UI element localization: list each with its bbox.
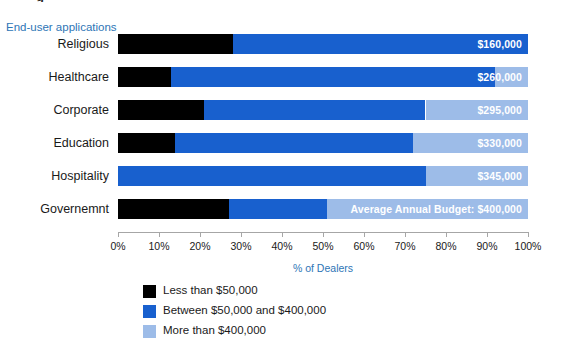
bar-data-label: $160,000 [477,39,522,50]
category-label: Hospitality [51,170,109,183]
x-axis-tick-label: 0% [110,240,125,252]
bar-row: Religious$160,000 [118,34,528,54]
x-axis-tick-label: 60% [353,240,374,252]
bar-row: Healthcare$260,000 [118,67,528,87]
bar-segment [118,133,175,153]
x-axis-tick [364,232,365,237]
x-axis-tick [405,232,406,237]
bar-data-label: $295,000 [477,105,522,116]
bar-segment [118,166,426,186]
x-axis-tick [118,232,119,237]
bar-segment [118,100,204,120]
bar-segment [171,67,495,87]
bar-row: Education$330,000 [118,133,528,153]
legend-label: Between $50,000 and $400,000 [163,305,326,317]
bar-segment [118,199,229,219]
category-label: Religious [58,38,109,51]
category-label: Healthcare [49,71,109,84]
x-axis-tick [446,232,447,237]
legend-label: Less than $50,000 [163,285,258,297]
x-axis-tick-label: 70% [394,240,415,252]
x-axis-tick [282,232,283,237]
bar-data-label: Average Annual Budget: $400,000 [350,204,522,215]
x-axis-tick [159,232,160,237]
x-axis-line: 0%10%20%30%40%50%60%70%80%90%100% [118,232,528,233]
bar-segment [118,34,233,54]
x-axis-tick [487,232,488,237]
x-axis-tick-label: 40% [271,240,292,252]
bar-data-label: $260,000 [477,72,522,83]
x-axis-tick-label: 80% [435,240,456,252]
bar-data-label: $345,000 [477,171,522,182]
chart-plot-area: Religious$160,000Healthcare$260,000Corpo… [118,30,528,232]
legend-item[interactable]: Between $50,000 and $400,000 [143,301,326,321]
legend-label: More than $400,000 [163,325,266,337]
bar-row: Corporate$295,000 [118,100,528,120]
x-axis-tick-label: 50% [312,240,333,252]
series-axis-title: End-user applications [6,21,117,33]
bar-row: Hospitality$345,000 [118,166,528,186]
x-axis-tick-label: 20% [189,240,210,252]
x-axis-tick [200,232,201,237]
category-label: Governemnt [40,203,109,216]
x-axis-tick [323,232,324,237]
x-axis-tick-label: 10% [148,240,169,252]
value-axis-title: % of Dealers [118,262,528,274]
x-axis-tick [241,232,242,237]
category-label: Corporate [53,104,109,117]
bar-segment [118,67,171,87]
category-label: Education [53,137,109,150]
legend-swatch-icon [143,285,156,298]
x-axis-tick [528,232,529,237]
legend-item[interactable]: Less than $50,000 [143,281,326,301]
clipped-title-fragment: g [36,0,44,2]
chart-legend: Less than $50,000Between $50,000 and $40… [143,281,326,341]
legend-swatch-icon [143,305,156,318]
legend-swatch-icon [143,325,156,338]
bar-data-label: $330,000 [477,138,522,149]
legend-item[interactable]: More than $400,000 [143,321,326,341]
x-axis-tick-label: 90% [476,240,497,252]
bar-segment [204,100,425,120]
bar-segment [229,199,327,219]
bar-row: GovernemntAverage Annual Budget: $400,00… [118,199,528,219]
bar-segment [175,133,413,153]
x-axis-tick-label: 100% [515,240,542,252]
x-axis-tick-label: 30% [230,240,251,252]
